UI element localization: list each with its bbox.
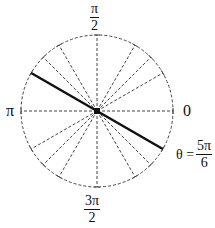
denominator: 2 [91, 18, 98, 33]
label-theta: θ = 5π 6 [176, 139, 212, 170]
denominator: 6 [201, 155, 208, 170]
label-pi: π [6, 103, 14, 119]
origin-marker [94, 108, 100, 114]
numerator: π [90, 2, 99, 18]
theta-fraction: 5π 6 [196, 139, 212, 170]
numerator: 5π [196, 139, 212, 155]
numerator: 3π [84, 194, 100, 210]
label-3pi-over-2: 3π 2 [84, 194, 100, 225]
label-pi-over-2: π 2 [90, 2, 99, 33]
denominator: 2 [89, 210, 96, 225]
theta-prefix: θ = [176, 147, 194, 163]
label-zero: 0 [183, 103, 191, 119]
